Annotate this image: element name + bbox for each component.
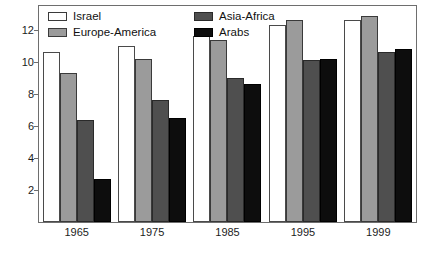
y-axis-tick-label: 8 bbox=[0, 88, 34, 100]
bar bbox=[286, 20, 303, 222]
y-axis-tick-label: 2 bbox=[0, 184, 34, 196]
bar bbox=[152, 100, 169, 222]
bar bbox=[210, 40, 227, 222]
bar bbox=[344, 20, 361, 222]
bar bbox=[135, 59, 152, 222]
bar bbox=[244, 84, 261, 222]
bar-group bbox=[265, 6, 340, 222]
bar-group bbox=[341, 6, 416, 222]
y-axis-tick-label: 6 bbox=[0, 120, 34, 132]
y-axis-tick-label: 12 bbox=[0, 24, 34, 36]
bar bbox=[361, 16, 378, 222]
bar bbox=[43, 52, 60, 222]
bar bbox=[169, 118, 186, 222]
legend-label: Asia-Africa bbox=[219, 10, 275, 22]
x-axis-tick-label: 1999 bbox=[366, 226, 390, 238]
bar-chart-figure: 24681012 19651975198519951999 IsraelAsia… bbox=[0, 0, 421, 265]
x-axis-tick-label: 1975 bbox=[140, 226, 164, 238]
bar bbox=[60, 73, 77, 222]
legend-label: Europe-America bbox=[73, 26, 156, 38]
legend-label: Arabs bbox=[219, 26, 249, 38]
legend-swatch-europe bbox=[48, 28, 67, 37]
legend-label: Israel bbox=[73, 10, 101, 22]
legend-swatch-arabs bbox=[194, 28, 213, 37]
bar bbox=[193, 36, 210, 222]
bar bbox=[77, 120, 94, 222]
bar bbox=[118, 46, 135, 222]
legend-swatch-israel bbox=[48, 12, 67, 21]
bar bbox=[395, 49, 412, 222]
bar-group bbox=[190, 6, 265, 222]
chart-legend: IsraelAsia-AfricaEurope-AmericaArabs bbox=[48, 10, 275, 38]
bar bbox=[378, 52, 395, 222]
bar bbox=[269, 25, 286, 222]
bar bbox=[303, 60, 320, 222]
plot-area bbox=[39, 6, 416, 222]
x-axis-tick-label: 1965 bbox=[64, 226, 88, 238]
legend-item: Israel bbox=[48, 10, 156, 22]
y-axis-tick-label: 10 bbox=[0, 56, 34, 68]
y-axis: 24681012 bbox=[0, 5, 34, 223]
bar-group bbox=[114, 6, 189, 222]
bar bbox=[94, 179, 111, 222]
bar bbox=[320, 59, 337, 222]
x-axis-tick-label: 1995 bbox=[291, 226, 315, 238]
legend-item: Arabs bbox=[194, 26, 275, 38]
bar-group bbox=[39, 6, 114, 222]
legend-item: Asia-Africa bbox=[194, 10, 275, 22]
x-axis-tick-label: 1985 bbox=[215, 226, 239, 238]
y-axis-tick-label: 4 bbox=[0, 152, 34, 164]
legend-item: Europe-America bbox=[48, 26, 156, 38]
bar bbox=[227, 78, 244, 222]
x-axis: 19651975198519951999 bbox=[39, 226, 416, 248]
legend-swatch-asia bbox=[194, 12, 213, 21]
